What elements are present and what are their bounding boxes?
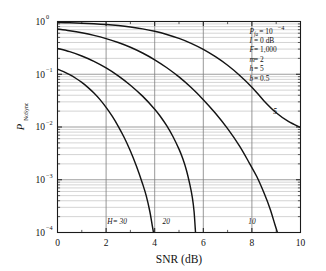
svg-text:10: 10 [36, 228, 46, 238]
svg-text:= 30: = 30 [113, 217, 128, 226]
svg-text:5: 5 [273, 107, 277, 116]
x-tick-label: 8 [250, 238, 255, 248]
chart-figure: 0246810 10010−110−210−310−4 H = 3020105 … [0, 0, 326, 271]
x-tick-label: 2 [104, 238, 109, 248]
svg-text:= 1,000: = 1,000 [254, 45, 277, 54]
annotation-3: F = 1,000 [249, 45, 278, 54]
svg-text:−1: −1 [46, 66, 53, 73]
curve-label-1: H = 30 [106, 217, 127, 226]
svg-text:−3: −3 [46, 172, 53, 179]
svg-text:h: h [250, 64, 254, 73]
svg-text:= 0.5: = 0.5 [254, 74, 270, 83]
svg-text:10: 10 [36, 122, 46, 132]
svg-text:= 5: = 5 [254, 64, 264, 73]
svg-text:b: b [250, 74, 254, 83]
svg-text:P: P [15, 123, 26, 131]
svg-text:−4: −4 [278, 24, 285, 31]
curve-label-4: 5 [273, 107, 277, 116]
svg-text:10: 10 [36, 175, 46, 185]
svg-text:= 2: = 2 [254, 55, 264, 64]
curve-label-2: 20 [162, 217, 170, 226]
svg-text:= 10: = 10 [259, 27, 273, 36]
x-tick-label: 6 [201, 238, 206, 248]
svg-text:I: I [249, 36, 253, 45]
svg-text:−2: −2 [46, 119, 53, 126]
svg-text:−4: −4 [46, 224, 53, 231]
svg-text:10: 10 [248, 217, 256, 226]
chart-svg: 0246810 10010−110−210−310−4 H = 3020105 … [0, 0, 326, 271]
x-tick-label: 10 [296, 238, 306, 248]
curve-label-3: 10 [248, 217, 256, 226]
annotation-4: m = 2 [250, 55, 265, 64]
annotation-6: b = 0.5 [250, 74, 270, 83]
x-axis-title: SNR (dB) [156, 253, 202, 266]
x-tick-label: 0 [55, 238, 60, 248]
svg-text:NoSync: NoSync [23, 102, 29, 121]
annotation-5: h = 5 [250, 64, 265, 73]
svg-text:= 0 dB: = 0 dB [254, 36, 274, 45]
svg-text:20: 20 [162, 217, 170, 226]
svg-text:10: 10 [36, 70, 46, 80]
x-tick-label: 4 [152, 238, 157, 248]
svg-text:10: 10 [36, 17, 46, 27]
svg-text:0: 0 [46, 13, 49, 20]
